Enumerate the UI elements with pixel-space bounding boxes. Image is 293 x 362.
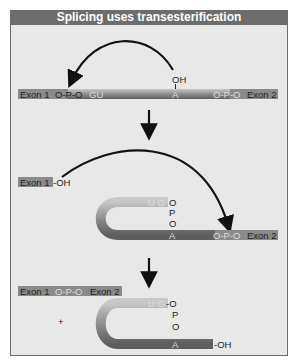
link-right-label: O-P-O: [213, 89, 240, 100]
step-2: Exon 1 -OH U G O P O A O-P-O Exon 2: [18, 150, 278, 240]
exon1-oh-label: -OH: [53, 177, 71, 188]
exon2-label: Exon 2: [247, 89, 277, 100]
branch-o2: O: [169, 218, 176, 229]
branch-p: P: [172, 309, 178, 320]
step-3: Exon 1 O-P-O Exon 2 + U G -O P O A -OH: [18, 286, 232, 350]
step-1: Exon 1 O-P-O GU A OH O-P-O Exon 2: [18, 41, 278, 99]
link-right-label: O-P-O: [213, 230, 240, 241]
exon1-label: Exon 1: [20, 89, 50, 100]
link-left-label: O-P-O: [55, 89, 82, 100]
exon1-label: Exon 1: [20, 286, 50, 297]
attack-arrow-icon: [72, 41, 173, 80]
lariat-intron: [101, 303, 213, 344]
a-label: A: [172, 89, 179, 100]
a-label: A: [169, 230, 176, 241]
oh-label: -OH: [214, 339, 232, 350]
link-label: O-P-O: [55, 286, 82, 297]
branch-o1: -O: [166, 298, 177, 309]
exon1-label: Exon 1: [20, 177, 50, 188]
branch-o2: O: [172, 321, 179, 332]
ug-label: U G: [148, 197, 165, 208]
branch-p: P: [169, 207, 175, 218]
branch-o1: O: [169, 197, 176, 208]
gu-label: GU: [89, 89, 103, 100]
a-label: A: [172, 339, 179, 350]
exon2-label: Exon 2: [247, 230, 277, 241]
ug-label: U G: [148, 298, 165, 309]
plus-sign: +: [58, 316, 64, 327]
exon2-label: Exon 2: [90, 286, 120, 297]
splicing-diagram: Exon 1 O-P-O GU A OH O-P-O Exon 2 Exon 1…: [0, 0, 293, 362]
oh-label: OH: [172, 74, 186, 85]
attack-arrow-2-icon: [62, 150, 228, 225]
